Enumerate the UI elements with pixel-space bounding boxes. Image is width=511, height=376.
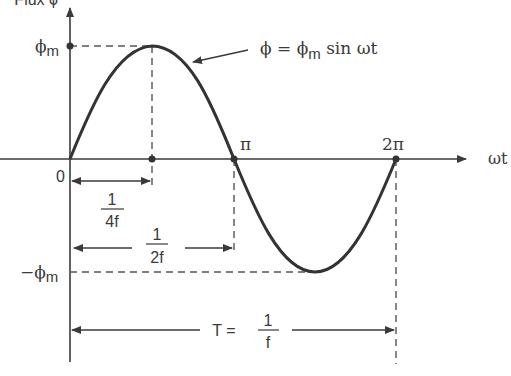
- pi-label: π: [240, 134, 251, 154]
- full-period-prefix: T =: [212, 322, 235, 339]
- two-pi-label: 2π: [382, 134, 404, 154]
- full-period-denominator: f: [266, 334, 271, 351]
- quarter-period-denominator: 4f: [105, 213, 119, 230]
- equation-pointer-arrow: [193, 50, 248, 62]
- half-period-denominator: 2f: [150, 249, 164, 266]
- quarter-period-numerator: 1: [108, 191, 117, 208]
- y-axis-label: Flux ϕ: [14, 0, 58, 8]
- flux-waveform-diagram: Flux ϕ ωt 0 ϕm −ϕm π 2π ϕ = ϕm sin ωt 1 …: [0, 0, 511, 376]
- half-period-numerator: 1: [153, 226, 162, 243]
- equation-label: ϕ = ϕm sin ωt: [260, 38, 378, 62]
- origin-label: 0: [56, 168, 65, 185]
- trough-label: −ϕm: [20, 262, 58, 285]
- peak-label: ϕm: [35, 36, 59, 59]
- x-axis-label: ωt: [488, 149, 508, 168]
- quarter-period-dot: [149, 156, 156, 163]
- peak-marker-dot: [67, 43, 74, 50]
- full-period-numerator: 1: [264, 312, 273, 329]
